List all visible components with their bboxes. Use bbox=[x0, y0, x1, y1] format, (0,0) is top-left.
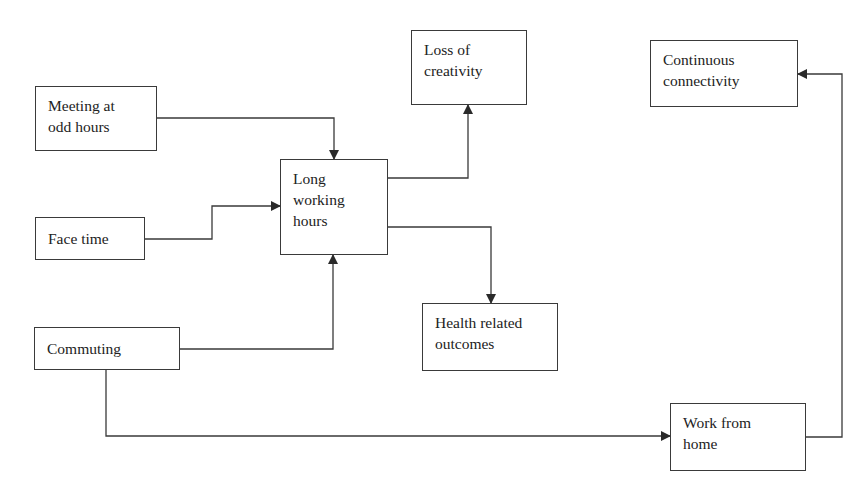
node-label-line: hours bbox=[293, 210, 387, 231]
edge-long-hours-to-loss-creativity bbox=[388, 105, 468, 178]
node-label-line: connectivity bbox=[663, 70, 797, 91]
node-loss-of-creativity: Loss of creativity bbox=[411, 30, 527, 105]
node-label-line: outcomes bbox=[435, 333, 557, 354]
node-meeting-at-odd-hours: Meeting at odd hours bbox=[35, 86, 157, 151]
node-label-line: Loss of bbox=[424, 39, 526, 60]
edge-wfh-to-connectivity bbox=[798, 74, 842, 437]
node-label-line: working bbox=[293, 189, 387, 210]
node-work-from-home: Work from home bbox=[670, 403, 806, 471]
node-label-line: Face time bbox=[48, 228, 144, 249]
node-label-line: Long bbox=[293, 168, 387, 189]
node-label-line: Continuous bbox=[663, 49, 797, 70]
node-label-line: home bbox=[683, 433, 805, 454]
node-label-line: odd hours bbox=[48, 116, 156, 137]
edge-commuting-to-long-hours bbox=[180, 255, 333, 349]
node-health-related-outcomes: Health related outcomes bbox=[422, 303, 558, 371]
node-label-line: Health related bbox=[435, 312, 557, 333]
edge-long-hours-to-health bbox=[388, 227, 491, 303]
node-label-line: creativity bbox=[424, 60, 526, 81]
node-face-time: Face time bbox=[35, 217, 145, 260]
diagram-canvas: Meeting at odd hours Face time Commuting… bbox=[0, 0, 865, 492]
node-label-line: Commuting bbox=[47, 338, 179, 359]
edge-meeting-to-long-hours bbox=[157, 118, 334, 159]
edge-commuting-to-wfh bbox=[106, 370, 670, 436]
node-commuting: Commuting bbox=[34, 327, 180, 370]
node-long-working-hours: Long working hours bbox=[280, 159, 388, 255]
edge-facetime-to-long-hours bbox=[145, 206, 280, 239]
node-label-line: Meeting at bbox=[48, 95, 156, 116]
node-continuous-connectivity: Continuous connectivity bbox=[650, 40, 798, 107]
node-label-line: Work from bbox=[683, 412, 805, 433]
